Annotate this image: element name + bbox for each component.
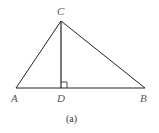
segment-ac xyxy=(16,21,61,88)
triangle-diagram: C A D B (a) xyxy=(0,0,159,133)
segment-bc xyxy=(61,21,145,88)
label-a: A xyxy=(10,92,18,104)
figure-caption: (a) xyxy=(66,113,77,125)
right-angle-mark xyxy=(61,82,67,88)
label-c: C xyxy=(57,5,65,17)
label-b: B xyxy=(140,92,147,104)
label-d: D xyxy=(56,92,65,104)
